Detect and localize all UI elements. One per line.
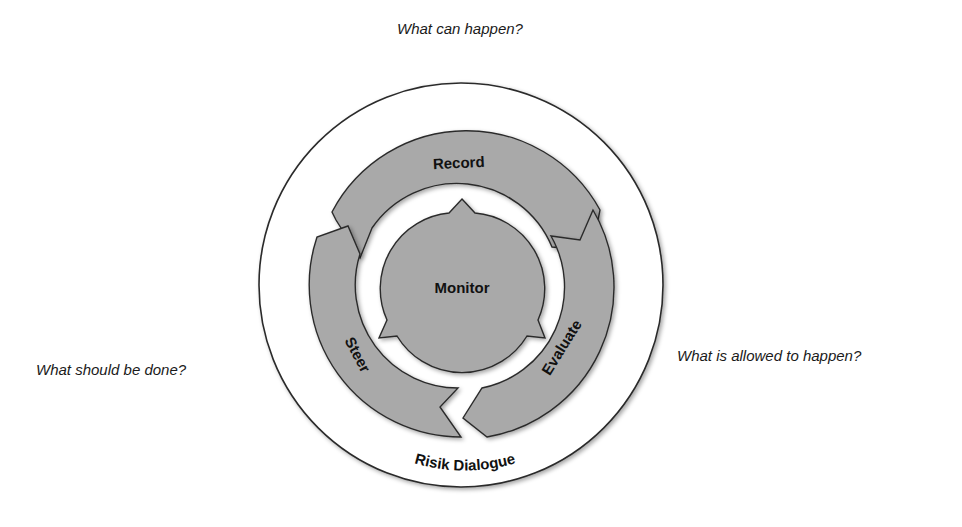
risk-cycle-diagram: Monitor Record Evaluate Steer Risik Dial…	[0, 0, 962, 527]
center-label-monitor: Monitor	[435, 279, 490, 296]
step-label-record: Record	[432, 153, 485, 173]
